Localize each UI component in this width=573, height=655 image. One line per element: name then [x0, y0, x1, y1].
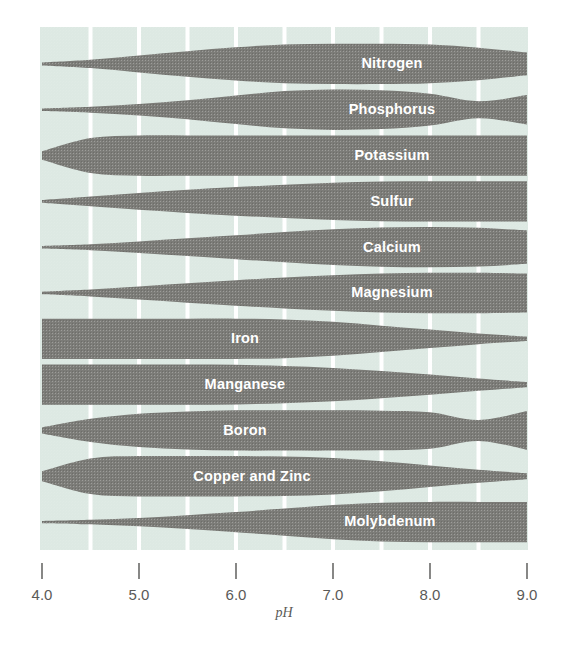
band-label-copper-and-zinc: Copper and Zinc	[193, 468, 310, 484]
tick-label-8.0: 8.0	[420, 586, 441, 603]
tick-label-7.0: 7.0	[323, 586, 344, 603]
band-label-magnesium: Magnesium	[351, 284, 433, 300]
band-label-nitrogen: Nitrogen	[361, 55, 422, 71]
tick-label-4.0: 4.0	[32, 586, 53, 603]
tick-label-6.0: 6.0	[226, 586, 247, 603]
band-label-sulfur: Sulfur	[370, 193, 413, 209]
band-label-potassium: Potassium	[354, 147, 429, 163]
tick-label-9.0: 9.0	[517, 586, 538, 603]
band-label-boron: Boron	[223, 422, 267, 438]
band-label-calcium: Calcium	[363, 239, 421, 255]
nutrient-availability-chart: NitrogenPhosphorusPotassiumSulfurCalcium…	[0, 0, 573, 655]
chart-svg: NitrogenPhosphorusPotassiumSulfurCalcium…	[0, 0, 573, 655]
band-label-manganese: Manganese	[205, 376, 286, 392]
band-label-phosphorus: Phosphorus	[349, 101, 436, 117]
band-label-molybdenum: Molybdenum	[344, 513, 435, 529]
band-label-iron: Iron	[231, 330, 259, 346]
tick-label-5.0: 5.0	[129, 586, 150, 603]
axis-title-ph: pH	[274, 605, 293, 620]
band-texture	[42, 135, 527, 176]
